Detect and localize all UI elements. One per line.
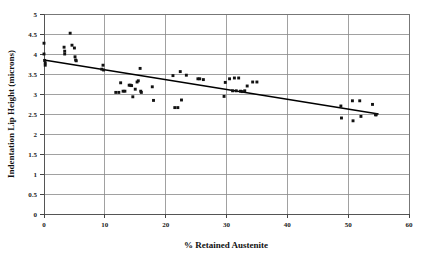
data-point (139, 67, 142, 70)
data-point (102, 69, 105, 72)
chart-svg: 0102030405060 00.511.522.533.544.55 % Re… (0, 0, 425, 254)
data-point (63, 46, 66, 49)
data-point (75, 59, 78, 62)
data-point (119, 81, 122, 84)
data-point (43, 53, 46, 56)
y-tick-label: 4.5 (28, 31, 37, 39)
data-point (371, 103, 374, 106)
data-point (63, 53, 66, 56)
x-tick-label: 30 (223, 221, 231, 229)
data-point (151, 85, 154, 88)
x-tick-label: 0 (42, 221, 46, 229)
data-point (137, 79, 140, 82)
data-point (223, 95, 226, 98)
data-point (140, 91, 143, 94)
chart-background (0, 0, 425, 254)
data-point (233, 77, 236, 80)
data-point (134, 88, 137, 91)
x-tick-label: 20 (162, 221, 170, 229)
x-tick-label: 10 (101, 221, 109, 229)
data-point (117, 91, 120, 94)
data-point (63, 50, 66, 53)
y-tick-label: 0 (34, 211, 38, 219)
data-point (173, 106, 176, 109)
data-point (180, 99, 183, 102)
scatter-chart: 0102030405060 00.511.522.533.544.55 % Re… (0, 0, 425, 254)
data-point (243, 89, 246, 92)
data-point (74, 55, 77, 58)
x-tick-label: 60 (406, 221, 414, 229)
y-tick-label: 5 (34, 11, 38, 19)
y-tick-label: 3 (34, 91, 38, 99)
y-tick-label: 3.5 (28, 71, 37, 79)
data-point (231, 89, 234, 92)
data-point (73, 47, 76, 50)
y-tick-label: 1 (34, 171, 38, 179)
data-point (237, 77, 240, 80)
data-point (176, 106, 179, 109)
data-point (351, 99, 354, 102)
data-point (358, 99, 361, 102)
data-point (123, 90, 126, 93)
data-point (340, 117, 343, 120)
y-tick-label: 0.5 (28, 191, 37, 199)
data-point (255, 81, 258, 84)
data-point (228, 77, 231, 80)
data-point (251, 81, 254, 84)
data-point (202, 78, 205, 81)
data-point (102, 64, 105, 67)
data-point (71, 44, 74, 47)
data-point (375, 113, 378, 116)
x-axis-title: % Retained Austenite (184, 240, 268, 250)
data-point (352, 119, 355, 122)
data-point (44, 64, 47, 67)
data-point (172, 74, 175, 77)
data-point (152, 99, 155, 102)
data-point (69, 32, 72, 35)
data-point (130, 84, 133, 87)
y-tick-label: 2 (34, 131, 38, 139)
data-point (185, 74, 188, 77)
data-point (179, 70, 182, 73)
data-point (235, 89, 238, 92)
data-point (198, 77, 201, 80)
data-point (43, 42, 46, 45)
y-tick-label: 1.5 (28, 151, 37, 159)
x-tick-label: 40 (284, 221, 292, 229)
y-axis-title: Indentation Lip Height (microns) (6, 50, 16, 178)
data-point (114, 91, 117, 94)
data-point (246, 85, 249, 88)
data-point (131, 95, 134, 98)
data-point (359, 115, 362, 118)
data-point (224, 81, 227, 84)
data-point (339, 105, 342, 108)
y-tick-label: 2.5 (28, 111, 37, 119)
x-tick-label: 50 (345, 221, 353, 229)
y-tick-label: 4 (34, 51, 38, 59)
